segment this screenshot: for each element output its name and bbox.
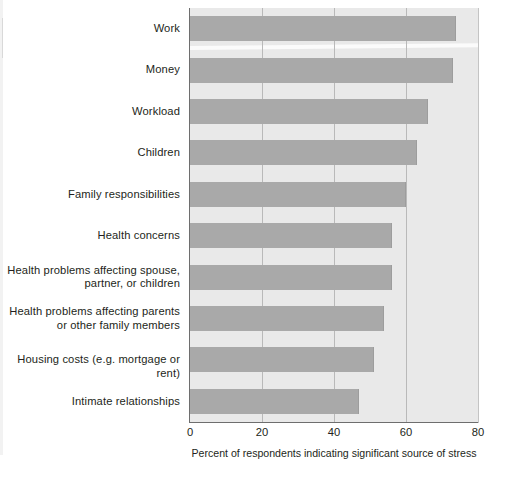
bar (190, 306, 384, 331)
plot-area (190, 8, 478, 422)
plot-right-border (478, 8, 479, 423)
bar (190, 265, 392, 290)
bar (190, 58, 453, 83)
category-label: Intimate relationships (0, 395, 180, 409)
category-label: Children (0, 146, 180, 160)
x-axis-title: Percent of respondents indicating signif… (190, 447, 478, 459)
category-label: Family responsibilities (0, 188, 180, 202)
bar (190, 389, 359, 414)
category-label: Health concerns (0, 229, 180, 243)
category-axis-labels: WorkMoneyWorkloadChildrenFamily responsi… (0, 8, 186, 422)
y-axis-line (189, 8, 190, 423)
category-label: Housing costs (e.g. mortgage or rent) (0, 353, 180, 380)
category-label: Health problems affecting parents or oth… (0, 305, 180, 332)
x-axis-line (189, 422, 479, 423)
category-label: Money (0, 63, 180, 77)
category-label: Work (0, 22, 180, 36)
bar-chart-figure: WorkMoneyWorkloadChildrenFamily responsi… (0, 0, 510, 484)
x-tick-40: 40 (328, 426, 340, 438)
bar (190, 347, 374, 372)
category-label: Workload (0, 105, 180, 119)
bar (190, 223, 392, 248)
category-label: Health problems affecting spouse, partne… (0, 264, 180, 291)
bar (190, 99, 428, 124)
x-tick-80: 80 (472, 426, 484, 438)
x-tick-60: 60 (400, 426, 412, 438)
bar (190, 140, 417, 165)
x-tick-0: 0 (187, 426, 193, 438)
bar (190, 182, 406, 207)
bar (190, 16, 456, 41)
x-tick-20: 20 (256, 426, 268, 438)
